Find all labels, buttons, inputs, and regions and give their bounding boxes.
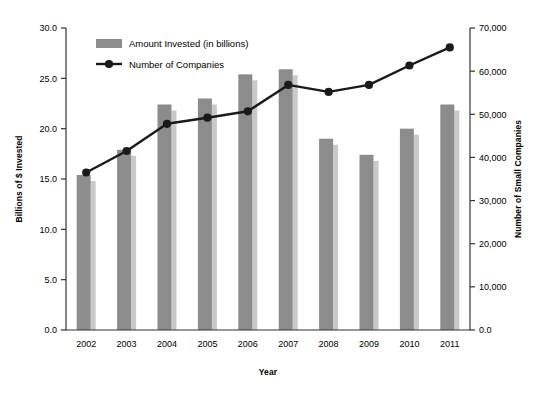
x-tick-label: 2011	[440, 339, 459, 349]
left-axis-tick-label: 0.0	[44, 325, 57, 335]
bar-group	[77, 175, 96, 330]
bar-shadow	[91, 181, 96, 330]
bar-shadow	[374, 161, 379, 330]
x-tick-label: 2008	[319, 339, 339, 349]
line-marker-point	[284, 81, 292, 89]
right-axis-tick-label: 20,000	[479, 239, 507, 249]
bar	[158, 105, 172, 330]
bar-shadow	[333, 145, 338, 330]
right-axis-tick-label: 30,000	[479, 196, 507, 206]
legend-label-number-of-companies: Number of Companies	[129, 59, 224, 70]
right-axis-tick-label: 10,000	[479, 282, 507, 292]
x-tick-label: 2009	[359, 339, 379, 349]
legend-swatch-amount-invested	[96, 39, 122, 48]
bar	[198, 98, 212, 330]
line-marker-point	[405, 61, 413, 69]
left-axis-tick-label: 5.0	[44, 275, 57, 285]
line-marker-point	[82, 168, 90, 176]
line-marker-point	[446, 43, 454, 51]
bar-group	[117, 150, 136, 330]
x-tick-label: 2004	[157, 339, 177, 349]
bar-group	[198, 98, 217, 330]
bar-shadow	[131, 156, 136, 330]
chart-container: 0.05.010.015.020.025.030.00.010,00020,00…	[0, 0, 541, 394]
x-tick-label: 2007	[278, 339, 298, 349]
bar-group	[158, 105, 177, 330]
bar	[117, 150, 131, 330]
bar	[319, 139, 333, 330]
left-axis-tick-label: 25.0	[39, 74, 57, 84]
x-tick-label: 2010	[399, 339, 419, 349]
bar-shadow	[414, 135, 419, 330]
bar-group	[279, 69, 298, 330]
dual-axis-bar-line-chart: 0.05.010.015.020.025.030.00.010,00020,00…	[0, 0, 541, 394]
left-axis-tick-label: 20.0	[39, 124, 57, 134]
bar-shadow	[172, 111, 177, 330]
bar	[400, 129, 414, 330]
left-axis-tick-label: 15.0	[39, 174, 57, 184]
line-marker-point	[325, 88, 333, 96]
legend-marker-number-of-companies	[105, 60, 113, 68]
bar-group	[440, 105, 459, 330]
bar-shadow	[212, 104, 217, 330]
line-marker-point	[244, 107, 252, 115]
right-axis-tick-label: 40,000	[479, 153, 507, 163]
bar-shadow	[293, 75, 298, 330]
x-tick-label: 2006	[238, 339, 258, 349]
line-marker-point	[163, 120, 171, 128]
x-tick-label: 2005	[197, 339, 217, 349]
bar-shadow	[252, 80, 257, 330]
left-axis-tick-label: 30.0	[39, 23, 57, 33]
y2-axis-title: Number of Small Companies	[513, 120, 523, 238]
bar-shadow	[454, 111, 459, 330]
bar	[360, 155, 374, 330]
bar	[77, 175, 91, 330]
legend-label-amount-invested: Amount Invested (in billions)	[129, 38, 248, 49]
bar-group	[400, 129, 419, 330]
x-tick-label: 2003	[117, 339, 137, 349]
bar-group	[319, 139, 338, 330]
left-axis-tick-label: 10.0	[39, 225, 57, 235]
bar-group	[360, 155, 379, 330]
right-axis-tick-label: 70,000	[479, 23, 507, 33]
y-axis-title: Billions of $ Invested	[14, 135, 24, 222]
line-marker-point	[203, 114, 211, 122]
bar	[279, 69, 293, 330]
bar	[440, 105, 454, 330]
right-axis-tick-label: 0.0	[479, 325, 492, 335]
x-axis-title: Year	[259, 367, 278, 377]
right-axis-tick-label: 50,000	[479, 110, 507, 120]
line-marker-point	[123, 147, 131, 155]
right-axis-tick-label: 60,000	[479, 67, 507, 77]
x-tick-label: 2002	[76, 339, 96, 349]
line-marker-point	[365, 81, 373, 89]
